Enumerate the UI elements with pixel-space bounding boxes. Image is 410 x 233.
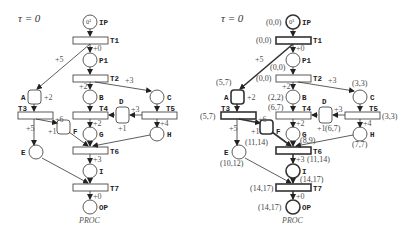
- time-t7: (14,17): [250, 184, 274, 193]
- weight-t1-p1: +0: [296, 44, 305, 53]
- place-op: [286, 200, 300, 214]
- place-h: [353, 127, 367, 141]
- place-g: [83, 127, 97, 141]
- label-c: C: [370, 94, 375, 102]
- weight-t5-h: +4: [363, 119, 372, 128]
- weight-t1-a: +5: [255, 55, 264, 64]
- ip-token: 0¹: [86, 18, 91, 25]
- time-t1: (0,0): [256, 36, 272, 45]
- transition-t5: [345, 112, 380, 119]
- place-p1: [83, 53, 97, 67]
- time-d: (6,7): [325, 124, 341, 133]
- label-p1: P1: [302, 57, 312, 65]
- transition-t2: [276, 75, 311, 82]
- label-f: F: [276, 128, 281, 136]
- label-t4: T4: [99, 105, 109, 113]
- place-e: [29, 145, 43, 159]
- weight-t3-f: +6: [55, 115, 64, 124]
- label-ip: IP: [99, 19, 109, 27]
- label-e: E: [224, 149, 229, 157]
- label-a: A: [224, 94, 229, 102]
- time-ip: (0,0): [266, 18, 282, 27]
- transition-t7: [276, 184, 311, 191]
- label-op: OP: [302, 204, 312, 212]
- label-e: E: [21, 149, 26, 157]
- time-t5: (3,3): [382, 112, 398, 121]
- label-t2: T2: [110, 75, 120, 83]
- left-caption: PROC: [78, 216, 101, 225]
- label-d: D: [322, 98, 327, 106]
- time-t3: (5,7): [200, 112, 216, 121]
- weight-t2-b: +2: [79, 82, 88, 91]
- place-p1: [286, 53, 300, 67]
- weight-t2-b: +2: [282, 82, 291, 91]
- transition-t6: [73, 147, 108, 154]
- transition-t2: [73, 75, 108, 82]
- label-t1: T1: [110, 37, 120, 45]
- place-a: [231, 90, 244, 104]
- time-f: (11,14): [245, 138, 268, 147]
- time-t2: (0,0): [256, 74, 272, 83]
- time-g: (8,9): [300, 136, 316, 145]
- label-c: C: [167, 94, 172, 102]
- weight-t5-d: +3: [131, 105, 140, 114]
- time-t4: (6,7): [268, 103, 284, 112]
- time-a: (5,7): [216, 78, 232, 87]
- place-b: [83, 90, 97, 104]
- weight-t5-h: +4: [160, 119, 169, 128]
- label-d: D: [119, 98, 124, 106]
- label-t2: T2: [313, 75, 323, 83]
- transition-t4: [276, 112, 311, 119]
- label-b: B: [99, 94, 104, 102]
- weight-t2-c: +3: [328, 76, 337, 85]
- weight-t2-c: +3: [125, 76, 134, 85]
- place-e: [232, 145, 246, 159]
- label-t7: T7: [110, 185, 119, 193]
- label-t1: T1: [313, 37, 323, 45]
- place-d: [116, 107, 129, 123]
- place-i: [286, 164, 300, 178]
- weight-t3-e: +5: [26, 124, 35, 133]
- weight-t1-p1: +0: [93, 44, 102, 53]
- weight-t3-f: +6: [258, 115, 267, 124]
- time-e: (10,12): [220, 159, 244, 168]
- time-t6: (11,14): [307, 155, 330, 164]
- transition-t3: [18, 112, 53, 119]
- label-h: H: [167, 131, 172, 139]
- label-f: F: [73, 128, 78, 136]
- time-i: (14,17): [300, 175, 324, 184]
- place-h: [150, 127, 164, 141]
- weight-t7-op: +0: [93, 192, 102, 201]
- weight-d: +1: [118, 124, 127, 133]
- place-i: [83, 164, 97, 178]
- petri-net-figure: τ = 0 0¹ IP T1 +0 +5 P1 T2 +3 +2 A +2 B …: [0, 0, 410, 233]
- weight-t4-g: +2: [93, 119, 102, 128]
- place-d: [319, 107, 332, 123]
- label-ip: IP: [302, 19, 312, 27]
- transition-t6: [276, 147, 311, 154]
- weight-a: +2: [44, 93, 53, 102]
- weight-t5-d: +3: [334, 105, 343, 114]
- time-op: (14,17): [258, 203, 282, 212]
- time-p1: (0,0): [270, 63, 286, 72]
- weight-t1-a: +5: [55, 55, 64, 64]
- label-t3: T3: [221, 105, 231, 113]
- weight-t7-op: +0: [296, 192, 305, 201]
- label-a: A: [21, 94, 26, 102]
- label-t4: T4: [302, 105, 312, 113]
- label-op: OP: [99, 204, 109, 212]
- time-h: (7,7): [352, 140, 368, 149]
- time-b: (2,2): [268, 93, 284, 102]
- place-op: [83, 200, 97, 214]
- right-caption: PROC: [281, 216, 304, 225]
- right-title: τ = 0: [221, 12, 244, 24]
- weight-f: +1: [251, 127, 260, 136]
- transition-t1: [73, 37, 108, 44]
- label-g: G: [99, 131, 104, 139]
- label-t3: T3: [18, 105, 28, 113]
- place-g: [286, 127, 300, 141]
- place-c: [150, 90, 164, 104]
- place-a: [28, 90, 41, 104]
- weight-t6-i: +3: [93, 155, 102, 164]
- transition-t5: [142, 112, 177, 119]
